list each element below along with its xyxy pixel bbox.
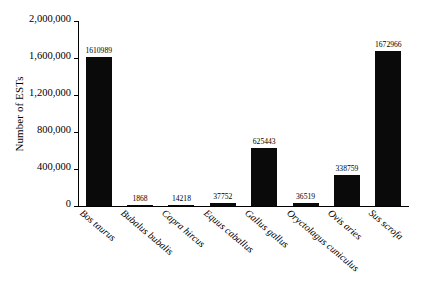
y-axis-tick-label: 2,000,000 <box>29 13 71 24</box>
y-axis-tick-label: 1,200,000 <box>29 87 71 98</box>
bar-value-label: 37752 <box>213 192 232 201</box>
x-axis-label: Sus scrofa <box>367 207 406 242</box>
y-axis-tick: 0 <box>0 206 78 207</box>
y-axis-tick: 800,000 <box>0 132 78 133</box>
bar-value-label: 625443 <box>253 137 276 146</box>
bar-value-label: 36519 <box>296 192 315 201</box>
y-axis-tick: 400,000 <box>0 169 78 170</box>
bar <box>168 205 194 206</box>
bar <box>334 175 360 206</box>
bar <box>251 148 277 206</box>
x-axis-label: Oryctolagus cuniculus <box>284 207 360 273</box>
plot-area: 1610989186814218377526254433651933875916… <box>78 21 409 206</box>
bar-group: 37752 <box>210 21 236 206</box>
y-axis-title: Number of ESTs <box>13 59 31 169</box>
y-axis-tick: 1,200,000 <box>0 95 78 96</box>
bar-group: 625443 <box>251 21 277 206</box>
y-axis-tick-label: 400,000 <box>37 161 71 172</box>
bar-value-label: 338759 <box>336 164 359 173</box>
bar <box>210 203 236 206</box>
y-axis-tick: 1,600,000 <box>0 58 78 59</box>
bar <box>375 51 401 206</box>
bar-group: 1868 <box>127 21 153 206</box>
ests-bar-chart: Number of ESTs 0400,000800,0001,200,0001… <box>0 0 422 300</box>
y-axis-tick: 2,000,000 <box>0 21 78 22</box>
bar <box>86 57 112 206</box>
bar-value-label: 1610989 <box>85 46 112 55</box>
bar-value-label: 1868 <box>132 194 147 203</box>
y-axis-tick-label: 1,600,000 <box>29 50 71 61</box>
y-axis-tick-label: 800,000 <box>37 124 71 135</box>
bar <box>127 205 153 206</box>
x-axis-label: Ovis aries <box>326 207 364 242</box>
bar-value-label: 1672966 <box>375 40 402 49</box>
bar <box>293 203 319 206</box>
bar-value-label: 14218 <box>172 194 191 203</box>
bar-group: 1672966 <box>375 21 401 206</box>
bar-group: 1610989 <box>86 21 112 206</box>
bar-group: 14218 <box>168 21 194 206</box>
y-axis-tick-label: 0 <box>66 198 71 209</box>
x-axis-label: Bos taurus <box>78 207 118 243</box>
bar-group: 338759 <box>334 21 360 206</box>
bar-group: 36519 <box>293 21 319 206</box>
